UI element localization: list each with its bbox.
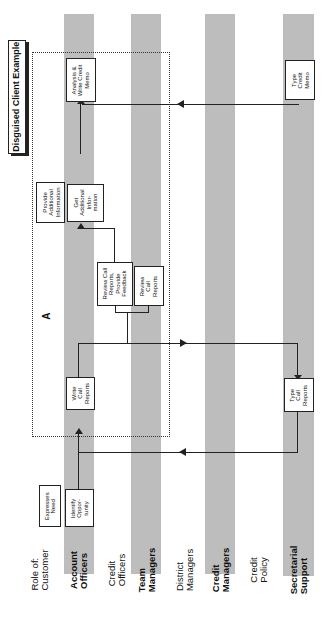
arrowhead-up-icon <box>75 428 83 434</box>
role-team-managers: Team Managers <box>129 530 165 610</box>
role-district-managers: District Managers <box>168 530 202 610</box>
region-a-label: A <box>42 310 54 322</box>
diagram-title: Disguised Client Example <box>8 40 26 154</box>
flow-to-type-call <box>297 343 298 378</box>
role-customer: Role of: Customer <box>20 530 60 610</box>
role-secretarial-support: Secretarial Support <box>280 530 318 610</box>
step-identify-opportunity[interactable]: Identify Oppor- tunity <box>65 489 94 527</box>
flow-credit-memo-return <box>82 104 299 105</box>
lane-credit-managers <box>205 14 235 574</box>
flow-to-analysis <box>80 102 81 154</box>
flow-type-down <box>297 412 298 453</box>
review-bracket <box>115 312 149 313</box>
step-analysis-write-credit-memo[interactable]: Analysis & Write Credit Memo <box>66 58 96 102</box>
region-a-boundary <box>32 52 170 437</box>
role-credit-policy: Credit Policy <box>242 530 276 610</box>
step-review-call-reports[interactable]: Review Call Reports <box>134 266 164 306</box>
step-type-credit-memo[interactable]: Type Credit Memo <box>285 60 315 100</box>
arrowhead-left-icon <box>177 100 184 108</box>
review-bracket-r <box>148 305 149 313</box>
flow-identify-to-write <box>78 432 79 490</box>
arrowhead-left-icon <box>179 448 186 456</box>
step-type-call-reports[interactable]: Type Call Reports <box>284 378 314 412</box>
step-get-additional-information[interactable]: Get Additional Infor- mation <box>67 184 104 222</box>
title-text: Disguised Client Example <box>12 42 21 152</box>
role-account-officers: Account Officers <box>60 530 98 610</box>
flow-review-left <box>80 228 115 229</box>
flow-write-up <box>78 343 79 378</box>
arrowhead-up-icon <box>77 223 85 229</box>
flow-review-up <box>114 228 115 264</box>
step-write-call-reports[interactable]: Write Call Reports <box>66 377 95 410</box>
flow-branch <box>78 343 298 344</box>
flow-type-to-account <box>78 452 298 453</box>
arrowhead-right-icon <box>180 339 187 347</box>
review-bracket-l <box>115 305 116 313</box>
flow-to-review <box>127 312 128 344</box>
step-review-call-reports-feedback[interactable]: Review Call Reports, Provide Feedback <box>97 262 133 306</box>
step-expresses-need[interactable]: Expresses Need <box>39 485 61 527</box>
role-credit-managers: Credit Managers <box>203 530 239 610</box>
step-provide-additional-information[interactable]: Provide Additional Information <box>36 182 65 223</box>
